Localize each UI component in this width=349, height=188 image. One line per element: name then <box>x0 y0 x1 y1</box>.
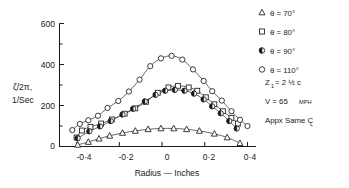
data-point-marker <box>190 67 195 72</box>
y-tick-label-400: 400 <box>41 60 55 70</box>
data-point-marker <box>105 105 110 110</box>
data-point-marker <box>219 98 224 103</box>
data-point-marker <box>95 113 100 118</box>
data-point-marker <box>172 87 177 92</box>
legend-note-z-rest: = 2 ½ c <box>275 78 301 87</box>
data-point-marker <box>75 136 80 141</box>
data-point-marker <box>191 91 196 96</box>
legend-entry-label-1: θ = 80° <box>270 28 295 37</box>
data-point-marker <box>148 64 153 69</box>
data-point-marker <box>163 88 168 93</box>
data-point-marker <box>210 89 215 94</box>
data-point-marker <box>87 129 92 134</box>
data-point-marker <box>259 67 264 72</box>
y-axis-title-line2: 1/Sec <box>12 95 34 105</box>
data-point-marker <box>153 92 158 97</box>
x-tick-label-0: 0 <box>165 152 170 162</box>
x-tick-label-neg04: -0·4 <box>76 152 91 162</box>
legend-entry-label-2: θ = 90° <box>270 47 295 56</box>
data-point-marker <box>182 88 187 93</box>
y-tick-label-200: 200 <box>41 101 55 111</box>
legend-entry-label-0: θ = 70° <box>270 9 295 18</box>
data-point-marker <box>97 124 102 129</box>
data-point-marker <box>142 99 147 104</box>
legend-note-z-main: Z <box>265 78 270 87</box>
x-tick-label-04: 0·4 <box>244 152 257 162</box>
data-point-marker <box>201 97 206 102</box>
x-tick-label-neg02: -0·2 <box>118 152 133 162</box>
data-point-marker <box>137 77 142 82</box>
data-point-marker <box>210 104 215 109</box>
legend-note-cl-sub: L <box>310 121 313 127</box>
data-point-marker <box>169 53 174 58</box>
data-point-marker <box>227 118 232 123</box>
y-axis-title-line1: ζ/2π, <box>13 82 32 92</box>
data-point-marker <box>259 29 264 34</box>
data-point-marker <box>116 98 121 103</box>
data-point-marker <box>245 123 250 128</box>
legend-note-v-unit: MPH <box>299 99 311 105</box>
data-point-marker <box>201 78 206 83</box>
y-tick-label-600: 600 <box>41 19 55 29</box>
data-point-marker <box>86 118 91 123</box>
data-point-marker <box>120 112 125 117</box>
data-point-marker <box>70 127 75 132</box>
data-point-marker <box>218 111 223 116</box>
legend-note-cl-main: Appx Same C <box>265 116 313 125</box>
data-point-marker <box>77 121 82 126</box>
data-point-marker <box>229 109 234 114</box>
chart-figure: 600 400 200 0 -0·4 -0·2 0 0·2 0·4 Radius… <box>0 0 349 188</box>
data-point-marker <box>234 126 239 131</box>
data-point-marker <box>126 89 131 94</box>
legend-note-z-sub: 1 <box>271 83 274 89</box>
x-tick-label-02: 0·2 <box>203 152 216 162</box>
data-point-marker <box>108 118 113 123</box>
data-point-marker <box>79 128 84 133</box>
data-point-marker <box>131 106 136 111</box>
legend-entry-label-3: θ = 110° <box>270 66 299 75</box>
y-tick-label-0: 0 <box>50 141 55 151</box>
chart-canvas: 600 400 200 0 -0·4 -0·2 0 0·2 0·4 Radius… <box>0 0 349 188</box>
x-axis-title: Radius — Inches <box>135 168 200 178</box>
legend-note-v-main: V = 65 <box>265 97 288 106</box>
data-point-marker <box>158 56 163 61</box>
data-point-marker <box>180 57 185 62</box>
data-point-marker <box>237 117 242 122</box>
data-point-marker <box>259 48 264 53</box>
